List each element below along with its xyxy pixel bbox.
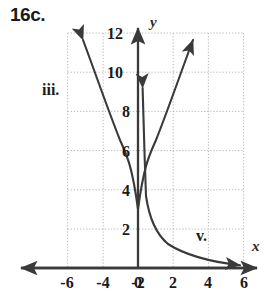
- y-tick-12: 12: [101, 26, 123, 42]
- x-axis-label: x: [252, 238, 260, 255]
- y-tick-8: 8: [108, 104, 130, 120]
- curve-label-iii: iii.: [42, 82, 59, 98]
- y-tick-6: 6: [108, 144, 130, 160]
- y-tick-4: 4: [108, 183, 130, 199]
- curve-exponential-v: [143, 88, 240, 265]
- x-tick-0: 0: [126, 275, 150, 291]
- curve-label-v: v.: [196, 228, 207, 244]
- y-tick-10: 10: [101, 65, 123, 81]
- x-tick-2: 2: [161, 275, 185, 291]
- x-tick-neg4: -4: [91, 275, 115, 291]
- x-tick-4: 4: [196, 275, 220, 291]
- y-axis-label: y: [150, 14, 157, 31]
- x-tick-6: 6: [232, 275, 256, 291]
- y-tick-2: 2: [108, 222, 130, 238]
- x-tick-neg6: -6: [55, 275, 79, 291]
- coordinate-plane: [0, 0, 273, 307]
- graph-figure: 16c.: [0, 0, 273, 307]
- axis-lines: [21, 28, 257, 268]
